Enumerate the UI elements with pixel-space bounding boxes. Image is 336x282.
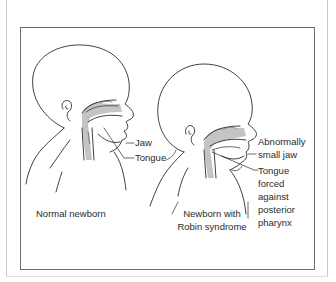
robin-newborn-figure	[150, 64, 256, 214]
caption-normal-newborn: Normal newborn	[36, 207, 106, 220]
normal-label-leaders	[104, 128, 134, 158]
label-abnormally-small-jaw: Abnormally small jaw	[258, 135, 306, 161]
normal-newborn-figure	[26, 45, 133, 192]
caption-robin-syndrome: Newborn with Robin syndrome	[172, 207, 252, 233]
label-tongue: Tongue	[135, 151, 166, 164]
label-jaw: Jaw	[135, 136, 152, 149]
label-tongue-forced-against-posterior-pharynx: Tongue forced against posterior pharynx	[258, 164, 295, 229]
